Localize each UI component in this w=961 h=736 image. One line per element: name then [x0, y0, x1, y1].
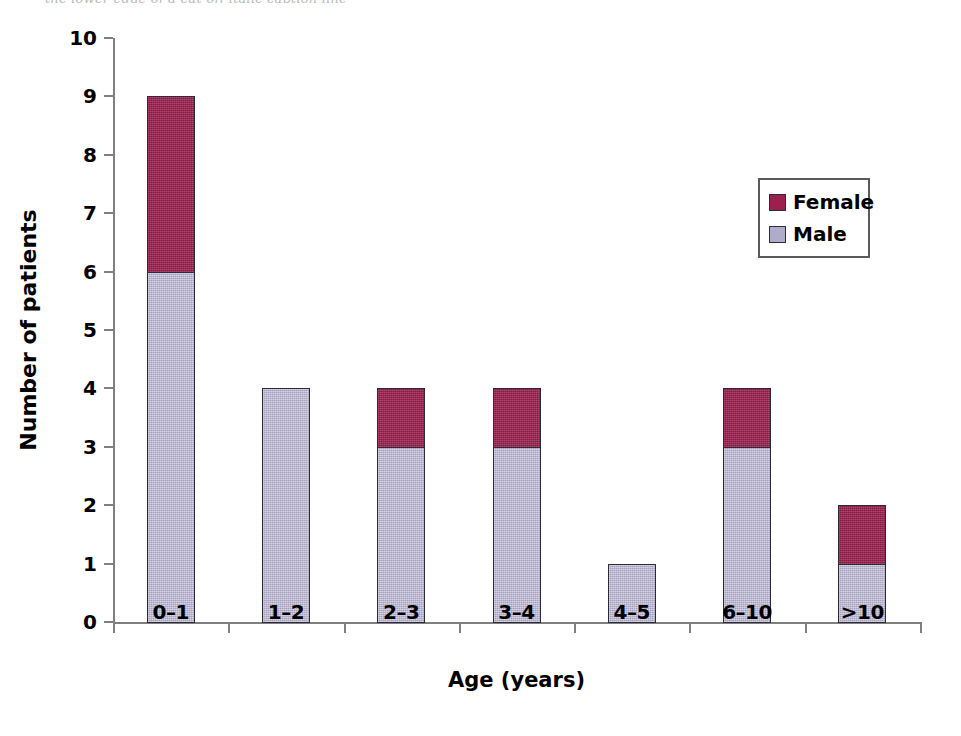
x-tick-7 [920, 622, 922, 633]
y-tick-6: 6 [104, 271, 113, 273]
y-axis-title: Number of patients [16, 209, 41, 450]
y-tick-8: 8 [104, 154, 113, 156]
y-tick-10: 10 [104, 37, 113, 39]
legend-label-female: Female [793, 192, 874, 212]
bar-segment-female [838, 505, 886, 564]
x-tick-3 [459, 622, 461, 633]
x-tick-1 [228, 622, 230, 633]
y-axis-line [113, 38, 115, 622]
x-tick-5 [689, 622, 691, 633]
legend-label-male: Male [793, 224, 847, 244]
y-tick-label-8: 8 [83, 145, 97, 165]
legend-item-male: Male [769, 221, 860, 247]
bar-group [838, 38, 886, 622]
bar-segment-female [723, 388, 771, 447]
bar-group [262, 38, 310, 622]
y-tick-7: 7 [104, 212, 113, 214]
chart-legend: FemaleMale [758, 178, 870, 258]
legend-item-female: Female [769, 189, 860, 215]
x-axis-title: Age (years) [113, 668, 920, 692]
bar-group [723, 38, 771, 622]
x-tick-label-7: >10 [841, 600, 884, 624]
x-tick-label-1: 0–1 [152, 600, 188, 624]
bar-segment-male [493, 447, 541, 623]
y-tick-label-4: 4 [83, 378, 97, 398]
y-tick-label-10: 10 [69, 28, 97, 48]
cut-off-caption-sliver: the lower edge of a cut-off italic capti… [45, 0, 925, 3]
x-tick-label-3: 2–3 [383, 600, 419, 624]
x-tick-label-6: 6–10 [722, 600, 772, 624]
y-tick-label-3: 3 [83, 437, 97, 457]
y-tick-label-7: 7 [83, 203, 97, 223]
y-tick-0: 0 [104, 621, 113, 623]
x-tick-2 [344, 622, 346, 633]
y-tick-label-6: 6 [83, 262, 97, 282]
y-tick-2: 2 [104, 504, 113, 506]
bar-segment-male [147, 272, 195, 623]
bar-segment-female [377, 388, 425, 447]
bar-group [147, 38, 195, 622]
y-tick-9: 9 [104, 95, 113, 97]
y-tick-label-5: 5 [83, 320, 97, 340]
bar-group [377, 38, 425, 622]
bar-group [493, 38, 541, 622]
bar-segment-male [262, 388, 310, 623]
x-tick-6 [805, 622, 807, 633]
x-tick-label-2: 1–2 [268, 600, 304, 624]
y-tick-label-2: 2 [83, 495, 97, 515]
y-tick-4: 4 [104, 387, 113, 389]
bar-segment-male [377, 447, 425, 623]
y-tick-label-1: 1 [83, 554, 97, 574]
plot-area: 012345678910 [113, 38, 920, 622]
legend-swatch-female [769, 194, 786, 211]
x-tick-label-5: 4–5 [614, 600, 650, 624]
y-tick-label-9: 9 [83, 86, 97, 106]
bar-segment-female [493, 388, 541, 447]
figure-canvas: the lower edge of a cut-off italic capti… [0, 0, 961, 736]
x-tick-label-4: 3–4 [498, 600, 534, 624]
bar-segment-female [147, 96, 195, 272]
x-tick-4 [574, 622, 576, 633]
x-tick-0 [113, 622, 115, 633]
y-tick-label-0: 0 [83, 612, 97, 632]
y-tick-3: 3 [104, 446, 113, 448]
legend-swatch-male [769, 226, 786, 243]
bar-segment-male [723, 447, 771, 623]
y-tick-5: 5 [104, 329, 113, 331]
y-tick-1: 1 [104, 563, 113, 565]
bar-group [608, 38, 656, 622]
